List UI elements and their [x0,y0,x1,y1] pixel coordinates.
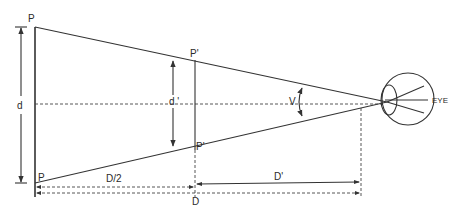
full-distance-arrow-right [355,191,360,195]
near-distance-label: D' [274,171,283,182]
visual-angle-arc [299,88,302,116]
near-distance-arrow-right [354,180,360,184]
eyeball [382,73,434,125]
eye-label: EYE [432,96,448,105]
eye-inner-ray-down [387,102,424,113]
half-distance-arrow-left [36,185,41,189]
visual-angle-diagram: d P P P' P' d ' V EYE D/2 D' D [0,0,463,213]
lower-ray [35,102,387,183]
full-distance-arrow-left [36,191,41,195]
near-distance-line [197,182,359,184]
full-distance-label: D [192,196,199,207]
visual-angle-label: V [289,96,296,107]
image-size-label: d ' [169,96,179,107]
object-bottom-label: P [38,172,45,183]
half-distance-label: D/2 [106,173,122,184]
image-bottom-label: P' [196,141,205,152]
object-top-label: P [28,13,35,24]
half-distance-arrow-right [189,185,194,189]
object-size-label: d [17,100,23,111]
image-top-label: P' [190,48,199,59]
near-distance-arrow-left [196,182,202,186]
upper-ray [35,27,387,102]
